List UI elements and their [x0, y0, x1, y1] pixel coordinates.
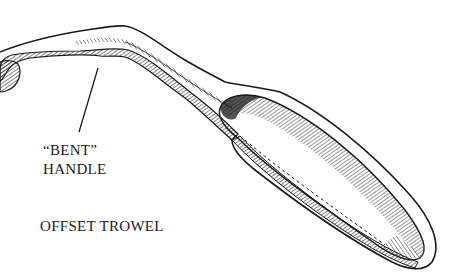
offset-trowel-illustration: [0, 0, 449, 278]
figure-caption: OFFSET TROWEL: [40, 217, 164, 235]
blade: [219, 82, 436, 269]
callout-label-handle: HANDLE: [43, 160, 106, 178]
handle: [0, 26, 238, 140]
callout-leader-line: [79, 68, 98, 132]
callout-label-bent: “BENT”: [43, 141, 97, 159]
